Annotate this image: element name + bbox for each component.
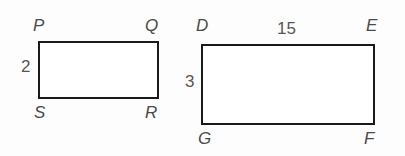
side-length-label-de: 15 (277, 20, 296, 37)
vertex-label-p: P (33, 17, 45, 34)
side-length-label-dg: 3 (185, 73, 194, 90)
vertex-label-s: S (34, 104, 46, 121)
geometry-figure-canvas: P Q S R 2 D E G F 15 3 (0, 0, 405, 156)
vertex-label-q: Q (145, 17, 158, 34)
rectangle-pqrs (38, 41, 159, 99)
vertex-label-g: G (198, 130, 211, 147)
vertex-label-e: E (366, 17, 378, 34)
rectangle-defg (201, 44, 375, 125)
vertex-label-f: F (364, 130, 375, 147)
side-length-label-ps: 2 (21, 58, 30, 75)
vertex-label-d: D (196, 17, 208, 34)
vertex-label-r: R (145, 104, 157, 121)
